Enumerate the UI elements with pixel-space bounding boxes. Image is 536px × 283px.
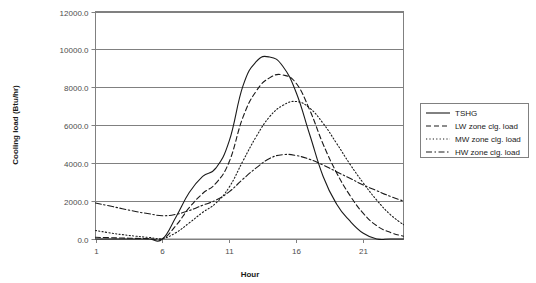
x-tick-label: 1 — [94, 247, 99, 256]
x-tick-label: 21 — [359, 247, 368, 256]
y-tick-label: 8000.0 — [64, 84, 89, 93]
y-tick-label: 6000.0 — [64, 122, 89, 131]
y-tick-label: 4000.0 — [64, 160, 89, 169]
y-tick-label: 10000.0 — [60, 46, 89, 55]
chart-figure: 0.02000.04000.06000.08000.010000.012000.… — [0, 0, 536, 283]
legend-label: HW zone clg. load — [455, 148, 520, 157]
cooling-load-line-chart: 0.02000.04000.06000.08000.010000.012000.… — [0, 0, 536, 283]
y-tick-label: 12000.0 — [60, 9, 89, 18]
x-tick-label: 6 — [160, 247, 165, 256]
y-tick-label: 0.0 — [77, 236, 89, 245]
y-tick-label: 2000.0 — [64, 198, 89, 207]
legend-label: MW zone clg. load — [455, 135, 521, 144]
x-axis-title: Hour — [241, 270, 260, 279]
legend-label: TSHG — [455, 109, 477, 118]
y-axis-title: Cooling load (Btu/hr) — [11, 85, 20, 165]
legend-label: LW zone clg. load — [455, 122, 518, 131]
x-tick-label: 11 — [225, 247, 234, 256]
x-tick-label: 16 — [292, 247, 301, 256]
